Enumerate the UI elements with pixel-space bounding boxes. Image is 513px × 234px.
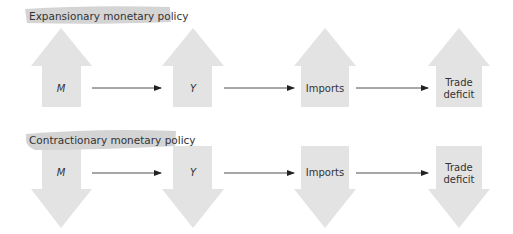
up-arrow-icon <box>162 28 224 107</box>
node-trade-label-1: Trade <box>444 77 472 88</box>
up-arrow-icon <box>294 28 356 107</box>
node-y-label: Y <box>190 83 197 94</box>
down-arrow-icon <box>428 146 490 228</box>
expansionary-section: Expansionary monetary policy M Y Imports… <box>25 6 490 107</box>
node-imports-label: Imports <box>306 167 344 178</box>
down-arrow-icon <box>31 146 92 228</box>
node-trade-label-1: Trade <box>444 162 472 173</box>
node-trade-label-2: deficit <box>444 89 475 100</box>
node-trade-label-2: deficit <box>444 174 475 185</box>
node-m-label: M <box>57 167 66 178</box>
contractionary-section: Contractionary monetary policy M Y Impor… <box>26 130 490 228</box>
up-arrow-icon <box>31 28 92 107</box>
node-y-label: Y <box>190 167 197 178</box>
expansionary-title: Expansionary monetary policy <box>29 10 188 22</box>
node-imports-label: Imports <box>306 83 344 94</box>
down-arrow-icon <box>162 146 224 228</box>
monetary-policy-diagram: Expansionary monetary policy M Y Imports… <box>0 0 513 234</box>
down-arrow-icon <box>294 146 356 228</box>
node-m-label: M <box>57 83 66 94</box>
contractionary-title: Contractionary monetary policy <box>29 134 196 146</box>
